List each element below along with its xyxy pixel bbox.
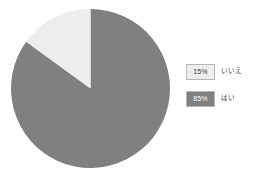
legend-item-hai[interactable]: 85% はい — [186, 90, 250, 107]
legend-swatch-hai: 85% — [186, 91, 215, 107]
legend-item-iie[interactable]: 15% いいえ — [186, 63, 250, 80]
legend-swatch-iie: 15% — [186, 64, 215, 80]
legend-label-hai: はい — [221, 95, 235, 102]
legend-label-iie: いいえ — [221, 68, 242, 75]
pie-chart: 15% いいえ 85% はい — [0, 0, 254, 177]
chart-legend: 15% いいえ 85% はい — [186, 63, 250, 117]
